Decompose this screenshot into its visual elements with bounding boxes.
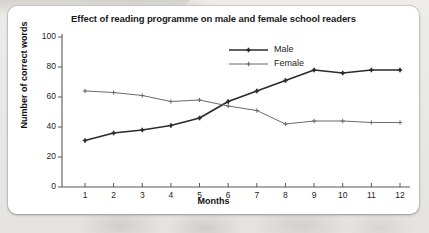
data-point-marker	[312, 68, 316, 72]
data-point-marker	[255, 108, 259, 112]
x-tick-label: 10	[331, 190, 355, 200]
chart-card: Effect of reading programme on male and …	[8, 6, 419, 214]
data-point-marker	[369, 120, 373, 124]
x-tick-label: 2	[102, 190, 126, 200]
y-tick-label: 80	[14, 61, 56, 71]
data-point-marker	[83, 89, 87, 93]
y-tick-label: 60	[14, 91, 56, 101]
x-axis-title: Months	[8, 196, 419, 206]
data-point-marker	[283, 78, 287, 82]
data-point-marker	[169, 123, 173, 127]
y-tick-label: 0	[14, 181, 56, 191]
data-point-marker	[283, 122, 287, 126]
series-group	[83, 68, 402, 143]
x-tick-label: 3	[130, 190, 154, 200]
y-tick-label: 40	[14, 121, 56, 131]
legend-group	[229, 48, 268, 66]
legend-label-male: Male	[274, 44, 294, 54]
data-point-marker	[312, 119, 316, 123]
data-point-marker	[226, 104, 230, 108]
data-point-marker	[197, 98, 201, 102]
x-tick-label: 5	[188, 190, 212, 200]
data-point-marker	[341, 71, 345, 75]
data-point-marker	[83, 138, 87, 142]
axes-group	[58, 34, 410, 187]
x-tick-label: 7	[245, 190, 269, 200]
data-point-marker	[398, 68, 402, 72]
series-line-male	[85, 70, 400, 141]
x-tick-label: 12	[388, 190, 412, 200]
data-point-marker	[255, 89, 259, 93]
x-tick-label: 11	[359, 190, 383, 200]
x-tick-label: 1	[73, 190, 97, 200]
x-tick-label: 4	[159, 190, 183, 200]
x-tick-label: 8	[273, 190, 297, 200]
line-chart-svg	[8, 6, 419, 214]
data-point-marker	[140, 128, 144, 132]
y-tick-label: 20	[14, 151, 56, 161]
data-point-marker	[111, 90, 115, 94]
data-point-marker	[398, 120, 402, 124]
plot-area: Number of correct words Months 020406080…	[8, 6, 419, 214]
data-point-marker	[169, 99, 173, 103]
data-point-marker	[341, 119, 345, 123]
data-point-marker	[140, 93, 144, 97]
data-point-marker	[369, 68, 373, 72]
x-tick-label: 9	[302, 190, 326, 200]
y-tick-label: 100	[14, 31, 56, 41]
x-tick-label: 6	[216, 190, 240, 200]
data-point-marker	[111, 131, 115, 135]
legend-label-female: Female	[274, 58, 304, 68]
